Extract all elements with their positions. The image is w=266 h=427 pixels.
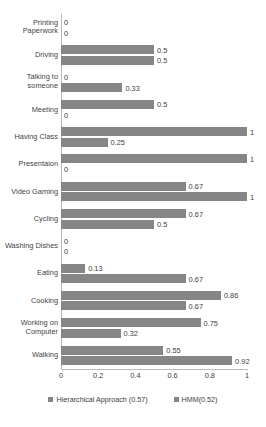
chart-legend: Hierarchical Approach (0.57)HMM(0.52) <box>0 395 266 404</box>
bar-value-label: 0.75 <box>204 318 218 327</box>
category-label: Working on Computer <box>0 319 58 336</box>
category-label: Talking to someone <box>0 74 58 91</box>
category-label: Cycling <box>0 215 58 224</box>
bar-hierarchical: 1 <box>61 154 247 163</box>
bar-value-label: 0 <box>64 18 68 27</box>
x-tick-label: 0 <box>59 371 63 380</box>
bar-hierarchical: 0.86 <box>61 291 221 300</box>
bar-hmm: 0.67 <box>61 301 186 310</box>
bar-value-label: 0.5 <box>157 56 167 65</box>
category-label: Washing Dishes <box>0 242 58 251</box>
bar-value-label: 0.13 <box>88 264 102 273</box>
x-axis-line <box>61 369 248 370</box>
bar-hierarchical: 0.67 <box>61 182 186 191</box>
category-label: Meeting <box>0 105 58 114</box>
bar-value-label: 0.5 <box>157 220 167 229</box>
bar-hierarchical: 0.5 <box>61 45 154 54</box>
category-label: Cooking <box>0 296 58 305</box>
legend-swatch-icon <box>174 397 179 402</box>
bar-hierarchical: 0.75 <box>61 318 201 327</box>
legend-swatch-icon <box>48 397 53 402</box>
x-tick-label: 0.2 <box>93 371 103 380</box>
category-label: Walking <box>0 351 58 360</box>
bar-hmm: 0.67 <box>61 274 186 283</box>
x-tick-label: 1 <box>245 371 249 380</box>
x-tick-label: 0.4 <box>130 371 140 380</box>
category-axis-labels: Printing PaperworkDrivingTalking to some… <box>0 14 58 369</box>
bar-value-label: 0 <box>64 165 68 174</box>
bar-hmm: 0.92 <box>61 356 232 365</box>
bar-value-label: 0.67 <box>189 182 203 191</box>
bar-value-label: 0.67 <box>189 209 203 218</box>
bar-value-label: 0 <box>64 110 68 119</box>
x-axis-tick-labels: 00.20.40.60.81 <box>61 371 247 385</box>
plot-area: 000.50.500.330.5010.25100.6710.670.5000.… <box>61 14 247 369</box>
bar-value-label: 1 <box>250 192 254 201</box>
bar-hmm: 0.5 <box>61 56 154 65</box>
bar-value-label: 0 <box>64 73 68 82</box>
bar-hierarchical: 0.55 <box>61 346 163 355</box>
category-label: Eating <box>0 269 58 278</box>
bar-value-label: 0.25 <box>111 138 125 147</box>
category-label: Printing Paperwork <box>0 19 58 36</box>
bar-value-label: 0 <box>64 247 68 256</box>
bar-value-label: 0.5 <box>157 100 167 109</box>
bar-hmm: 0.25 <box>61 138 108 147</box>
category-label: Presentaion <box>0 160 58 169</box>
category-label: Video Gaming <box>0 187 58 196</box>
grouped-bar-chart: Printing PaperworkDrivingTalking to some… <box>0 0 266 427</box>
x-tick-label: 0.8 <box>205 371 215 380</box>
bar-hmm: 0.32 <box>61 329 121 338</box>
category-label: Driving <box>0 51 58 60</box>
bar-value-label: 0.67 <box>189 274 203 283</box>
bar-value-label: 0.86 <box>224 291 238 300</box>
bar-hierarchical: 0.13 <box>61 264 85 273</box>
bar-hierarchical: 0.5 <box>61 100 154 109</box>
bar-hmm: 0.5 <box>61 220 154 229</box>
x-tick-label: 0.6 <box>167 371 177 380</box>
bar-value-label: 0.55 <box>166 346 180 355</box>
bar-value-label: 0.5 <box>157 45 167 54</box>
legend-label: HMM(0.52) <box>182 395 218 404</box>
bar-value-label: 0.32 <box>124 329 138 338</box>
legend-item[interactable]: HMM(0.52) <box>174 395 218 404</box>
legend-label: Hierarchical Approach (0.57) <box>56 395 147 404</box>
bar-hmm: 1 <box>61 192 247 201</box>
bar-value-label: 1 <box>250 127 254 136</box>
bar-hierarchical: 1 <box>61 127 247 136</box>
bar-hmm: 0.33 <box>61 83 122 92</box>
legend-item[interactable]: Hierarchical Approach (0.57) <box>48 395 147 404</box>
bar-value-label: 0.33 <box>125 83 139 92</box>
bar-value-label: 0.67 <box>189 301 203 310</box>
bar-hierarchical: 0.67 <box>61 209 186 218</box>
bar-value-label: 1 <box>250 154 254 163</box>
bar-value-label: 0 <box>64 28 68 37</box>
category-label: Having Class <box>0 133 58 142</box>
bar-value-label: 0.92 <box>235 356 249 365</box>
bar-value-label: 0 <box>64 236 68 245</box>
